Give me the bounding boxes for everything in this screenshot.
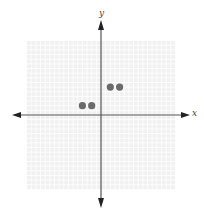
- x-axis-label: x: [192, 108, 197, 118]
- data-point: [88, 102, 95, 109]
- data-point: [116, 84, 123, 91]
- y-axis-label: y: [99, 8, 104, 18]
- x-axis-right-arrow-icon: [181, 112, 190, 118]
- y-axis-up-arrow-icon: [98, 20, 104, 30]
- coordinate-plane: [0, 0, 204, 216]
- x-axis-left-arrow-icon: [12, 112, 21, 118]
- data-point: [79, 102, 86, 109]
- data-point: [107, 84, 114, 91]
- y-axis-down-arrow-icon: [98, 198, 104, 208]
